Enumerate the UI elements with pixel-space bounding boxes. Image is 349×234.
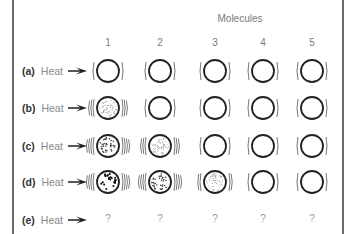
- vibrating-molecule-icon: [241, 130, 285, 162]
- molecule-5-row-b: [290, 92, 334, 124]
- row-label-a: (a)Heat: [22, 63, 63, 79]
- molecule-2-row-a: [138, 55, 182, 87]
- vibrating-molecule-icon: [86, 130, 130, 162]
- vibrating-molecule-icon: [193, 130, 237, 162]
- heat-label: Heat: [41, 140, 63, 152]
- vibrating-molecule-icon: [193, 92, 237, 124]
- vibrating-molecule-icon: [138, 55, 182, 87]
- arrow-right-icon: [68, 104, 88, 112]
- vibrating-molecule-icon: [193, 55, 237, 87]
- molecule-5-row-d: [290, 166, 334, 198]
- vibrating-molecule-icon: [290, 55, 334, 87]
- heat-label: Heat: [41, 102, 63, 114]
- molecule-3-row-a: [193, 55, 237, 87]
- row-letter: (c): [22, 140, 35, 152]
- column-number-1: 1: [98, 37, 118, 48]
- molecule-2-row-d: [138, 166, 182, 198]
- unknown-state-mark: ?: [253, 213, 273, 224]
- molecule-3-row-d: [193, 166, 237, 198]
- molecule-1-row-d: [86, 166, 130, 198]
- molecule-5-row-a: [290, 55, 334, 87]
- arrow-right-icon: [68, 67, 88, 75]
- molecule-1-row-c: [86, 130, 130, 162]
- molecule-2-row-c: [138, 130, 182, 162]
- unknown-state-mark: ?: [150, 213, 170, 224]
- molecule-5-row-c: [290, 130, 334, 162]
- molecule-3-row-c: [193, 130, 237, 162]
- molecule-4-row-a: [241, 55, 285, 87]
- row-letter: (e): [22, 214, 35, 226]
- row-label-b: (b)Heat: [22, 100, 64, 116]
- molecules-title: Molecules: [190, 13, 290, 24]
- vibrating-molecule-icon: [290, 130, 334, 162]
- vibrating-molecule-icon: [138, 166, 182, 198]
- column-number-4: 4: [253, 37, 273, 48]
- heat-label: Heat: [41, 65, 63, 77]
- row-label-e: (e)Heat: [22, 212, 63, 228]
- vibrating-molecule-icon: [193, 166, 237, 198]
- vibrating-molecule-icon: [241, 166, 285, 198]
- row-letter: (b): [22, 102, 35, 114]
- vibrating-molecule-icon: [86, 92, 130, 124]
- column-number-2: 2: [150, 37, 170, 48]
- row-label-d: (d)Heat: [22, 174, 64, 190]
- vibrating-molecule-icon: [290, 166, 334, 198]
- heat-label: Heat: [41, 214, 63, 226]
- molecule-4-row-d: [241, 166, 285, 198]
- column-number-5: 5: [302, 37, 322, 48]
- vibrating-molecule-icon: [86, 166, 130, 198]
- molecule-4-row-c: [241, 130, 285, 162]
- molecule-3-row-b: [193, 92, 237, 124]
- molecule-1-row-b: [86, 92, 130, 124]
- row-label-c: (c)Heat: [22, 138, 63, 154]
- vibrating-molecule-icon: [241, 92, 285, 124]
- unknown-state-mark: ?: [302, 213, 322, 224]
- molecule-4-row-b: [241, 92, 285, 124]
- unknown-state-mark: ?: [98, 213, 118, 224]
- vibrating-molecule-icon: [241, 55, 285, 87]
- heat-label: Heat: [41, 176, 63, 188]
- arrow-right-icon: [68, 216, 88, 224]
- column-number-3: 3: [205, 37, 225, 48]
- unknown-state-mark: ?: [205, 213, 225, 224]
- right-border: [342, 0, 344, 234]
- molecule-2-row-b: [138, 92, 182, 124]
- molecule-1-row-a: [86, 55, 130, 87]
- vibrating-molecule-icon: [138, 92, 182, 124]
- row-letter: (a): [22, 65, 35, 77]
- left-border: [12, 0, 14, 234]
- vibrating-molecule-icon: [138, 130, 182, 162]
- vibrating-molecule-icon: [290, 92, 334, 124]
- arrow-right-icon: [68, 142, 88, 150]
- vibrating-molecule-icon: [86, 55, 130, 87]
- arrow-right-icon: [68, 178, 88, 186]
- row-letter: (d): [22, 176, 35, 188]
